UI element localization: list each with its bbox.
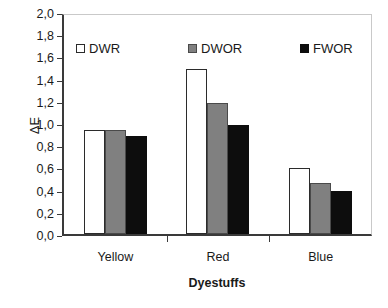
chart-legend: DWRDWORFWOR — [62, 39, 372, 57]
x-axis-category-label: Red — [207, 250, 230, 264]
bar-blue-fwor — [331, 191, 352, 234]
y-axis-tick-label: 0,8 — [22, 141, 54, 154]
bar-yellow-dwr — [84, 130, 105, 235]
bar-blue-dwor — [310, 183, 331, 234]
y-axis-tick-label: 1,8 — [22, 30, 54, 43]
legend-entry: FWOR — [300, 39, 353, 57]
bar-red-dwr — [186, 69, 207, 234]
y-axis-tick-labels: 0,00,20,40,60,81,01,21,41,61,82,0 — [22, 14, 54, 236]
y-axis-tick-label: 0,4 — [22, 185, 54, 198]
legend-label-fwor: FWOR — [313, 42, 353, 55]
x-axis-category-label: Yellow — [97, 250, 133, 264]
y-axis-tick-label: 0,6 — [22, 163, 54, 176]
y-axis-tick-label: 1,4 — [22, 74, 54, 87]
legend-swatch-dwor — [188, 44, 197, 53]
y-axis-tick-mark — [57, 103, 62, 104]
bar-red-fwor — [228, 125, 249, 234]
y-axis-tick-mark — [57, 81, 62, 82]
bar-chart-figure: ΔE 0,00,20,40,60,81,01,21,41,61,82,0 Dye… — [0, 0, 388, 308]
x-axis-category-label: Blue — [308, 250, 333, 264]
y-axis-tick-label: 1,0 — [22, 119, 54, 132]
bar-red-dwor — [207, 103, 228, 234]
legend-label-dwr: DWR — [89, 42, 120, 55]
y-axis-tick-mark — [57, 147, 62, 148]
y-axis-tick-mark — [57, 192, 62, 193]
y-axis-tick-label: 0,0 — [22, 230, 54, 243]
y-axis-tick-mark — [57, 236, 62, 237]
y-axis-tick-mark — [57, 125, 62, 126]
y-axis-tick-mark — [57, 214, 62, 215]
x-axis-tick-mark — [167, 236, 168, 242]
y-axis-tick-mark — [57, 14, 62, 15]
y-axis-tick-label: 0,2 — [22, 208, 54, 221]
y-axis-tick-mark — [57, 58, 62, 59]
y-axis-tick-label: 1,6 — [22, 52, 54, 65]
legend-entry: DWOR — [188, 39, 242, 57]
legend-entry: DWR — [76, 39, 120, 57]
bar-yellow-fwor — [126, 136, 147, 234]
bar-blue-dwr — [289, 168, 310, 234]
x-axis-tick-mark — [269, 236, 270, 242]
legend-swatch-dwr — [76, 44, 85, 53]
bar-yellow-dwor — [105, 130, 126, 235]
y-axis-tick-mark — [57, 169, 62, 170]
legend-label-dwor: DWOR — [201, 42, 242, 55]
legend-swatch-fwor — [300, 44, 309, 53]
y-axis-tick-mark — [57, 36, 62, 37]
y-axis-tick-label: 2,0 — [22, 8, 54, 21]
x-axis-title: Dyestuffs — [62, 276, 372, 290]
y-axis-tick-label: 1,2 — [22, 97, 54, 110]
